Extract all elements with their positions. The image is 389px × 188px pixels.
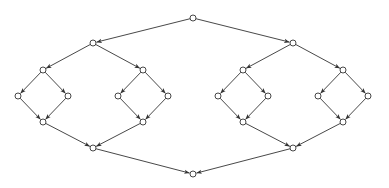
edge-arrow: [246, 44, 290, 68]
nodes-group: [15, 15, 371, 177]
graph-node: [340, 119, 346, 125]
graph-node: [140, 119, 146, 125]
edge-arrow: [296, 44, 340, 68]
edge-arrow: [145, 98, 165, 119]
graph-node: [115, 93, 121, 99]
graph-node: [215, 93, 221, 99]
edge-arrow: [220, 98, 240, 119]
graph-node: [40, 67, 46, 73]
graph-node: [290, 145, 296, 151]
graph-node: [90, 145, 96, 151]
edge-arrow: [245, 98, 265, 119]
edge-arrow: [96, 19, 190, 42]
edge-arrow: [20, 72, 40, 93]
graph-node: [140, 67, 146, 73]
graph-node: [190, 15, 196, 21]
edge-arrow: [120, 98, 140, 119]
edge-arrow: [245, 72, 265, 93]
edge-arrow: [96, 123, 140, 146]
edge-arrow: [196, 19, 290, 42]
edge-arrow: [45, 98, 65, 119]
graph-node: [315, 93, 321, 99]
edge-arrow: [96, 149, 190, 173]
graph-node: [290, 40, 296, 46]
edge-arrow: [220, 72, 240, 93]
edge-arrow: [320, 98, 340, 119]
edge-arrow: [196, 149, 290, 173]
graph-node: [365, 93, 371, 99]
graph-node: [165, 93, 171, 99]
graph-node: [240, 119, 246, 125]
graph-node: [265, 93, 271, 99]
edge-arrow: [20, 98, 40, 119]
edge-arrow: [246, 123, 290, 146]
edge-arrow: [296, 123, 340, 146]
graph-node: [240, 67, 246, 73]
edge-arrow: [345, 72, 365, 93]
directed-graph-diagram: [0, 0, 389, 188]
edge-arrow: [345, 98, 365, 119]
edges-group: [20, 19, 366, 173]
edge-arrow: [45, 72, 65, 93]
edge-arrow: [96, 44, 140, 68]
graph-node: [90, 40, 96, 46]
edge-arrow: [120, 72, 140, 93]
graph-node: [15, 93, 21, 99]
edge-arrow: [46, 44, 90, 68]
graph-node: [340, 67, 346, 73]
edge-arrow: [46, 123, 90, 146]
edge-arrow: [145, 72, 165, 93]
edge-arrow: [320, 72, 340, 93]
graph-node: [190, 171, 196, 177]
graph-node: [40, 119, 46, 125]
graph-node: [65, 93, 71, 99]
